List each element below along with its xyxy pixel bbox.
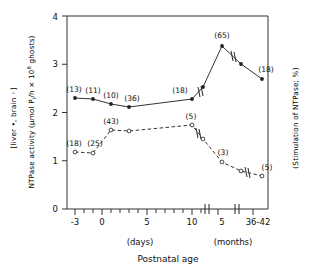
data-point — [91, 97, 95, 101]
series-brain-markers — [73, 123, 264, 178]
data-point — [239, 169, 243, 173]
point-label: (43) — [103, 117, 119, 126]
data-point — [109, 128, 113, 132]
point-label: (11) — [85, 86, 101, 95]
point-label: (18) — [258, 65, 274, 74]
y-axis-tick-labels: 0 1 2 3 4 — [53, 12, 58, 215]
y-axis-ticks — [62, 16, 67, 209]
point-label: (65) — [214, 31, 230, 40]
y-tick-4: 4 — [53, 12, 58, 22]
data-point — [201, 85, 205, 89]
x-tick-5months: 5 — [219, 217, 224, 227]
data-point — [260, 77, 264, 81]
y-tick-1: 1 — [53, 156, 58, 166]
y-tick-3: 3 — [53, 59, 58, 69]
x-tick-5days: 5 — [144, 217, 149, 227]
point-label: (5) — [262, 163, 273, 172]
x-tick-10days: 10 — [187, 217, 198, 227]
series-brain: (18) (25) (43) (5) (3) (5) — [66, 112, 272, 178]
point-label: (10) — [103, 91, 119, 100]
data-point — [91, 151, 95, 155]
data-point — [190, 97, 194, 101]
data-point — [201, 137, 205, 141]
y-axis-label-inner: NTPase activity (µmol Pi/h × 108 ghosts) — [26, 35, 36, 188]
data-point — [73, 96, 77, 100]
plot-frame — [67, 16, 268, 209]
series-brain-line — [75, 125, 262, 176]
x-axis-group-labels: (days) (months) — [127, 237, 253, 247]
data-point — [127, 129, 131, 133]
x-axis-ticks — [75, 209, 253, 215]
data-point — [220, 44, 224, 48]
series-liver-point-labels: (13) (11) (10) (36) (18) (65) (18) — [66, 31, 274, 103]
data-point — [260, 174, 264, 178]
figure-panel: [liver •, brain ◦] NTPase activity (µmol… — [0, 0, 310, 274]
data-point — [127, 105, 131, 109]
data-point — [220, 160, 224, 164]
y-axis-label-right: (Stimulation of NTPase; %) — [291, 67, 300, 168]
data-point — [190, 123, 194, 127]
series-brain-point-labels: (18) (25) (43) (5) (3) (5) — [66, 112, 272, 172]
x-tick-36-42: 36-42 — [246, 217, 271, 227]
point-label: (36) — [124, 94, 140, 103]
y-axis-label-outer: [liver •, brain ◦] — [9, 88, 18, 149]
chart-svg: [liver •, brain ◦] NTPase activity (µmol… — [0, 0, 310, 274]
x-group-months: (months) — [214, 237, 253, 247]
y-axis-label-inner-group: NTPase activity (µmol Pi/h × 108 ghosts) — [26, 35, 36, 188]
point-label: (18) — [172, 86, 188, 95]
data-point — [109, 102, 113, 106]
x-tick-0: 0 — [99, 217, 104, 227]
x-tick-minus3: -3 — [71, 217, 79, 227]
x-axis-tick-labels: -3 0 5 10 5 36-42 — [71, 217, 271, 227]
point-label: (25) — [87, 139, 103, 148]
x-group-days: (days) — [127, 237, 154, 247]
x-axis-title: Postnatal age — [137, 254, 199, 264]
data-point — [239, 62, 243, 66]
point-label: (3) — [218, 148, 229, 157]
point-label: (18) — [66, 139, 82, 148]
y-tick-0: 0 — [53, 204, 58, 214]
y-tick-2: 2 — [53, 108, 58, 118]
data-point — [73, 150, 77, 154]
series-liver-markers — [73, 44, 264, 109]
point-label: (13) — [66, 85, 82, 94]
point-label: (5) — [186, 112, 197, 121]
series-liver: (13) (11) (10) (36) (18) (65) (18) — [66, 31, 274, 109]
